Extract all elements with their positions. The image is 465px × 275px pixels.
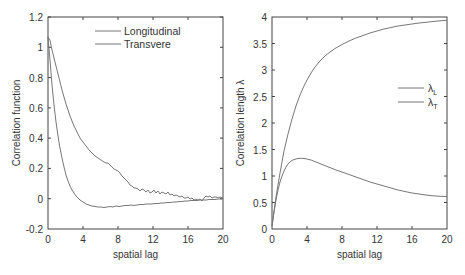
x-tick-label: 20 [441, 234, 453, 245]
x-tick-label: 8 [115, 234, 121, 245]
y-tick-label: 0 [37, 194, 43, 205]
x-tick-label: 4 [80, 234, 86, 245]
y-tick-label: 0 [261, 224, 267, 235]
right-x-tick-labels: 0 4 8 12 16 20 [269, 234, 453, 245]
x-tick-label: 8 [339, 234, 345, 245]
y-tick-label: -0.2 [26, 224, 44, 235]
y-tick-label: 0.4 [29, 133, 43, 144]
left-x-axis-label: spatial lag [113, 249, 158, 260]
x-tick-label: 12 [147, 234, 159, 245]
x-tick-label: 0 [269, 234, 275, 245]
y-tick-label: 1.5 [253, 145, 267, 156]
x-tick-label: 20 [217, 234, 229, 245]
y-tick-label: 2 [261, 118, 267, 129]
right-chart: 4 3.5 3 2.5 2 1.5 1 0.5 0 0 4 8 12 16 20… [235, 12, 453, 260]
right-plot-frame [272, 17, 447, 229]
x-tick-label: 12 [371, 234, 383, 245]
y-tick-label: 2.5 [253, 92, 267, 103]
y-tick-label: 1 [261, 171, 267, 182]
right-y-tick-labels: 4 3.5 3 2.5 2 1.5 1 0.5 0 [253, 12, 267, 235]
left-y-tick-labels: 1.2 1 0.8 0.6 0.4 0.2 0 -0.2 [26, 12, 44, 235]
x-tick-label: 0 [45, 234, 51, 245]
x-tick-label: 4 [304, 234, 310, 245]
y-tick-label: 1.2 [29, 12, 43, 23]
y-tick-label: 0.5 [253, 198, 267, 209]
left-chart: 1.2 1 0.8 0.6 0.4 0.2 0 -0.2 0 4 8 12 16… [11, 12, 229, 260]
left-x-tick-labels: 0 4 8 12 16 20 [45, 234, 229, 245]
y-tick-label: 0.6 [29, 103, 43, 114]
right-x-axis-label: spatial lag [337, 249, 382, 260]
y-tick-label: 1 [37, 42, 43, 53]
legend-label-transvere: Transvere [124, 38, 171, 50]
y-tick-label: 0.2 [29, 163, 43, 174]
right-y-axis-label: Correlation length λ [235, 80, 246, 167]
y-tick-label: 4 [261, 12, 267, 23]
x-tick-label: 16 [406, 234, 418, 245]
legend-label-longitudinal: Longitudinal [124, 25, 181, 37]
y-tick-label: 0.8 [29, 73, 43, 84]
y-tick-label: 3 [261, 65, 267, 76]
x-tick-label: 16 [182, 234, 194, 245]
figure: 1.2 1 0.8 0.6 0.4 0.2 0 -0.2 0 4 8 12 16… [0, 0, 465, 275]
y-tick-label: 3.5 [253, 39, 267, 50]
left-y-axis-label: Correlation function [11, 80, 22, 167]
